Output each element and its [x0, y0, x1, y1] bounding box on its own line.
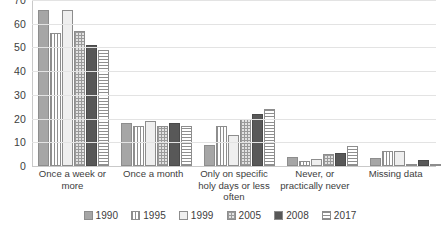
gridline: [32, 142, 436, 143]
bar[interactable]: [50, 33, 61, 166]
bar[interactable]: [204, 145, 215, 166]
legend-label: 2017: [334, 210, 357, 221]
y-axis-tick-label: 50: [14, 41, 26, 53]
x-axis-line: [32, 166, 436, 167]
bar-group: [115, 0, 198, 166]
gridline: [32, 47, 436, 48]
bar[interactable]: [181, 126, 192, 166]
gridline: [32, 24, 436, 25]
bar[interactable]: [228, 135, 239, 166]
category-axis-labels: Once a week or moreOnce a monthOnly on s…: [32, 168, 436, 203]
legend-label: 2005: [239, 210, 262, 221]
bar[interactable]: [335, 153, 346, 166]
bar[interactable]: [287, 157, 298, 166]
legend-item[interactable]: 2017: [322, 210, 357, 221]
legend-item[interactable]: 1999: [179, 210, 214, 221]
legend-item[interactable]: 1995: [131, 210, 166, 221]
bar-group: [32, 0, 115, 166]
bar[interactable]: [394, 151, 405, 166]
bar[interactable]: [157, 126, 168, 166]
legend-label: 1995: [143, 210, 166, 221]
bar[interactable]: [98, 50, 109, 166]
bar[interactable]: [347, 146, 358, 166]
legend-label: 2008: [286, 210, 309, 221]
category-label: Once a month: [113, 168, 194, 203]
category-label: Missing data: [355, 168, 436, 203]
y-axis-tick-label: 30: [14, 89, 26, 101]
legend-swatch-icon: [179, 211, 188, 220]
gridline: [32, 119, 436, 120]
legend-item[interactable]: 1990: [84, 210, 119, 221]
y-axis-tick-label: 20: [14, 113, 26, 125]
bar[interactable]: [133, 126, 144, 166]
legend-label: 1990: [96, 210, 119, 221]
bar[interactable]: [252, 114, 263, 166]
legend-label: 1999: [191, 210, 214, 221]
legend-item[interactable]: 2005: [227, 210, 262, 221]
chart-legend: 199019951999200520082017: [0, 210, 440, 221]
bar[interactable]: [169, 123, 180, 166]
bar[interactable]: [311, 159, 322, 166]
y-axis-tick-label: 70: [14, 0, 26, 6]
category-label: Only on specific holy days or less often: [194, 168, 275, 203]
category-label: Once a week or more: [32, 168, 113, 203]
y-axis-tick-label: 40: [14, 65, 26, 77]
gridline: [32, 95, 436, 96]
legend-swatch-icon: [227, 211, 236, 220]
legend-swatch-icon: [322, 211, 331, 220]
bar[interactable]: [145, 121, 156, 166]
bar-group: [281, 0, 364, 166]
legend-swatch-icon: [131, 211, 140, 220]
legend-item[interactable]: 2008: [274, 210, 309, 221]
grid-area: [32, 0, 436, 166]
bar[interactable]: [86, 45, 97, 166]
gridline: [32, 71, 436, 72]
plot-area: 010203040506070: [0, 0, 440, 166]
legend-swatch-icon: [274, 211, 283, 220]
y-axis-tick-label: 60: [14, 18, 26, 30]
legend-swatch-icon: [84, 211, 93, 220]
y-axis-tick-label: 0: [20, 160, 26, 172]
y-axis: 010203040506070: [0, 0, 30, 166]
bar[interactable]: [216, 126, 227, 166]
category-label: Never, or practically never: [274, 168, 355, 203]
bar[interactable]: [370, 158, 381, 166]
gridline: [32, 0, 436, 1]
y-axis-tick-label: 10: [14, 136, 26, 148]
bar[interactable]: [323, 154, 334, 166]
bar[interactable]: [74, 31, 85, 166]
bar-group: [198, 0, 281, 166]
bar-groups: [32, 0, 436, 166]
bar[interactable]: [382, 151, 393, 166]
bar-group: [364, 0, 445, 166]
bar[interactable]: [121, 123, 132, 166]
